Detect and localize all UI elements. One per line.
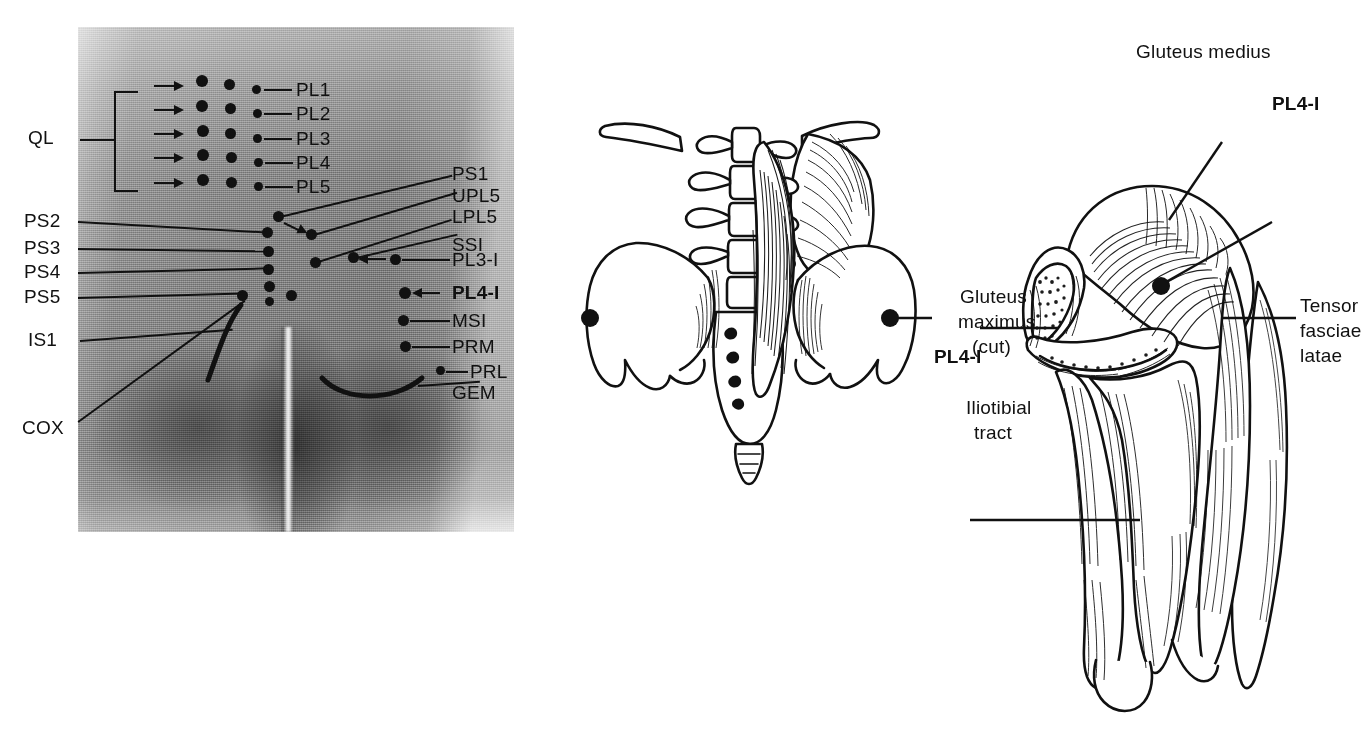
label-lpl5: LPL5: [452, 207, 497, 226]
leader-prm: [412, 346, 450, 348]
ql-leader-line: [80, 139, 114, 141]
pelvis-drawing: [540, 30, 960, 500]
label-gluteus-medius: Gluteus medius: [1136, 42, 1271, 61]
label-pl4: PL4: [296, 153, 330, 172]
dot-prm: [400, 341, 411, 352]
label-ps5: PS5: [24, 287, 61, 306]
dot-is1: [286, 290, 297, 301]
label-gluteus-maximus-line3: (cut): [972, 337, 1011, 356]
leader-pl4: [265, 162, 293, 164]
label-pl3i: PL3-I: [452, 250, 498, 269]
label-pl4i-photo: PL4-I: [452, 283, 499, 302]
label-pl5: PL5: [296, 177, 330, 196]
label-ps4: PS4: [24, 262, 61, 281]
label-iliotibial-line1: Iliotibial: [966, 398, 1031, 417]
dot-pl2-c2: [225, 103, 236, 114]
label-tensor-line2: fasciae: [1300, 321, 1362, 340]
dot-lpl5: [310, 257, 321, 268]
label-tensor-line1: Tensor: [1300, 296, 1358, 315]
leader-pl2: [264, 113, 292, 115]
label-cox: COX: [22, 418, 64, 437]
leader-msi: [410, 320, 450, 322]
marker-pl4i-right: [881, 309, 899, 327]
label-pl3: PL3: [296, 129, 330, 148]
leader-pl5: [265, 186, 293, 188]
label-ps3: PS3: [24, 238, 61, 257]
dot-pl4-c2: [226, 152, 237, 163]
dot-pl3i: [390, 254, 401, 265]
marker-pl4i-left: [581, 309, 599, 327]
is1-curve-mark: [186, 300, 276, 395]
dot-pl3-c1: [197, 125, 209, 137]
thigh-panel: [940, 20, 1371, 731]
label-gluteus-maximus-line1: Gluteus: [960, 287, 1027, 306]
pelvis-panel: [540, 30, 960, 500]
dot-pl1-c1: [196, 75, 208, 87]
label-tensor-line3: latae: [1300, 346, 1342, 365]
dot-pl3-c3: [253, 134, 262, 143]
label-pl4i-thigh: PL4-I: [1272, 94, 1319, 113]
label-is1: IS1: [28, 330, 57, 349]
label-pl1: PL1: [296, 80, 330, 99]
label-ql: QL: [28, 128, 54, 147]
dot-pl5-c2: [226, 177, 237, 188]
dot-pl2-c3: [253, 109, 262, 118]
label-prm: PRM: [452, 337, 495, 356]
dot-pl1-c2: [224, 79, 235, 90]
label-gem: GEM: [452, 383, 496, 402]
dot-pl4-c1: [197, 149, 209, 161]
label-pl2: PL2: [296, 104, 330, 123]
dot-ps5: [264, 281, 275, 292]
dot-pl5-c3: [254, 182, 263, 191]
leader-pl3: [264, 138, 292, 140]
label-gluteus-maximus-line2: maximus: [958, 312, 1035, 331]
leader-pl1: [264, 89, 292, 91]
dot-pl1-c3: [252, 85, 261, 94]
photograph-panel: [0, 0, 540, 560]
leader-prl: [446, 371, 468, 373]
label-iliotibial-line2: tract: [974, 423, 1012, 442]
dot-prl: [436, 366, 445, 375]
thigh-drawing: [940, 20, 1371, 731]
label-msi: MSI: [452, 311, 486, 330]
leader-pl3i: [402, 259, 450, 261]
label-ps1: PS1: [452, 164, 489, 183]
dot-msi: [398, 315, 409, 326]
ql-bracket: [114, 91, 138, 192]
dot-pl2-c1: [196, 100, 208, 112]
label-upl5: UPL5: [452, 186, 500, 205]
dot-pl3-c2: [225, 128, 236, 139]
label-ps2: PS2: [24, 211, 61, 230]
dot-pl4i: [399, 287, 411, 299]
marker-pl4i-thigh: [1152, 277, 1170, 295]
gem-curve-mark: [318, 372, 428, 408]
dot-pl4-c3: [254, 158, 263, 167]
dot-pl5-c1: [197, 174, 209, 186]
label-prl: PRL: [470, 362, 508, 381]
dot-ps4: [263, 264, 274, 275]
